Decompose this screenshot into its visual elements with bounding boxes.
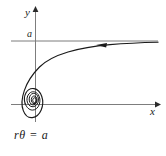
y-axis-arrowhead: [33, 6, 39, 12]
spiral-inner-windings: [25, 92, 40, 110]
spiral-outer-branch: [22, 42, 158, 117]
asymptote-value-label: a: [27, 29, 32, 39]
equation-caption: rθ = a: [14, 129, 48, 141]
curve-direction-arrowhead: [96, 43, 107, 47]
x-axis-arrowhead: [155, 102, 161, 108]
x-axis-label: x: [150, 106, 155, 117]
figure-container: y a x rθ = a: [0, 0, 166, 156]
y-axis-label: y: [25, 7, 30, 18]
